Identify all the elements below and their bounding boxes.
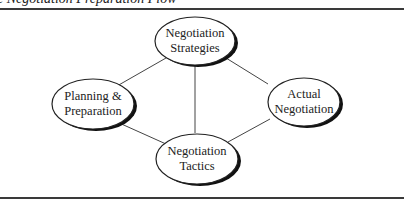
node-label-planning: Planning & Preparation xyxy=(64,89,122,119)
edge-planning-strategies xyxy=(117,58,166,86)
node-label-tactics: Negotiation Tactics xyxy=(167,144,226,174)
edge-strategies-actual xyxy=(226,58,268,84)
node-label-line: Planning & xyxy=(64,89,122,104)
node-label-line: Tactics xyxy=(167,159,226,174)
node-label-strategies: Negotiation Strategies xyxy=(165,26,224,56)
connectors xyxy=(117,58,270,144)
node-label-line: Actual xyxy=(274,87,333,102)
node-label-line: Preparation xyxy=(64,104,122,119)
node-label-line: Negotiation xyxy=(274,102,333,117)
node-label-actual: Actual Negotiation xyxy=(274,87,333,117)
node-label-line: Negotiation xyxy=(167,144,226,159)
edge-planning-tactics xyxy=(117,122,166,144)
node-label-line: Negotiation xyxy=(165,26,224,41)
node-label-line: Strategies xyxy=(165,41,224,56)
edge-tactics-actual xyxy=(228,119,270,142)
